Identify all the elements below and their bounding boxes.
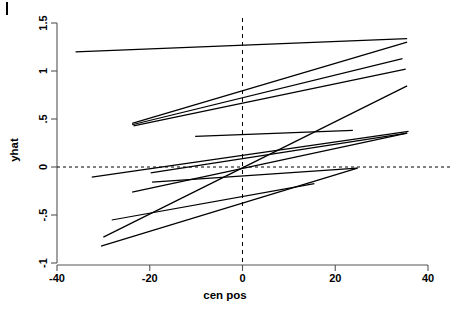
line-1 <box>76 39 408 52</box>
tick-labels-group: -1-.50.511.5-40-2002040 <box>37 15 434 284</box>
y-tick-label-4: 1 <box>37 68 49 74</box>
line-8 <box>151 133 407 173</box>
line-9 <box>132 133 407 192</box>
line-6 <box>195 130 353 136</box>
x-tick-label-2: 0 <box>239 272 245 284</box>
line-12 <box>101 168 357 246</box>
y-tick-label-0: -1 <box>37 258 49 268</box>
x-tick-label-1: -20 <box>142 272 158 284</box>
y-tick-label-1: -.5 <box>37 209 49 222</box>
reference-lines-group <box>57 18 450 265</box>
chart-canvas: -1-.50.511.5-40-2002040 cen pos yhat <box>0 0 450 313</box>
line-2 <box>132 42 407 123</box>
line-11 <box>112 184 315 220</box>
x-tick-label-0: -40 <box>49 272 65 284</box>
y-axis-title: yhat <box>8 138 20 162</box>
x-tick-label-3: 20 <box>329 272 341 284</box>
y-tick-label-2: 0 <box>37 164 49 170</box>
line-10 <box>152 168 357 182</box>
line-5 <box>103 86 407 237</box>
axes-group <box>51 23 428 271</box>
y-tick-label-3: .5 <box>37 114 49 123</box>
chart-figure: -1-.50.511.5-40-2002040 cen pos yhat <box>0 0 450 313</box>
line-3 <box>132 59 402 125</box>
line-7 <box>92 131 409 177</box>
y-tick-label-5: 1.5 <box>37 15 49 30</box>
x-axis-title: cen pos <box>203 289 246 301</box>
line-4 <box>134 69 406 126</box>
x-tick-label-4: 40 <box>422 272 434 284</box>
